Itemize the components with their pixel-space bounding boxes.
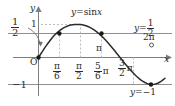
xtick-5pi-over-6-num: 5 bbox=[94, 62, 102, 71]
xtick-3pi-over-2-suffix: π bbox=[127, 64, 133, 73]
point-two-pi bbox=[150, 43, 154, 47]
origin-label: O bbox=[30, 58, 37, 67]
y-tick-one-label: 1 bbox=[31, 20, 37, 29]
hline-minus-one-label: y=−1 bbox=[130, 88, 156, 97]
xtick-3pi-over-2-num: 3 bbox=[118, 59, 126, 68]
xtick-3pi-over-2-den: 2 bbox=[118, 68, 126, 78]
xtick-pi-over-6: π 6 bbox=[53, 62, 61, 81]
x-axis-label: x bbox=[164, 55, 169, 64]
xtick-pi-over-6-num: π bbox=[53, 62, 61, 71]
sine-graph-figure: y x O 1 −1 1 2 y=sinx y= 1 2 y=−1 π 6 bbox=[0, 0, 175, 106]
xtick-5pi-over-6: 5 6 π bbox=[94, 62, 109, 81]
half-callout-label: 1 2 bbox=[11, 17, 19, 38]
y-axis-arrow-icon bbox=[35, 6, 41, 12]
hline-half-numerator: 1 bbox=[147, 19, 155, 28]
xtick-pi-over-6-den: 6 bbox=[53, 71, 61, 81]
xtick-5pi-over-6-den: 6 bbox=[94, 71, 102, 81]
xtick-pi: π bbox=[96, 44, 102, 53]
curve-equation-op: =sin bbox=[76, 7, 97, 17]
xtick-pi-over-2-num: π bbox=[75, 62, 83, 71]
xtick-two-pi: 2π bbox=[143, 33, 155, 42]
y-tick-minus-one-label: −1 bbox=[12, 80, 27, 90]
curve-equation-label: y=sinx bbox=[71, 8, 102, 17]
xtick-5pi-over-6-suffix: π bbox=[103, 67, 109, 76]
hline-minus-one-eq: =−1 bbox=[135, 88, 156, 97]
half-callout-numerator: 1 bbox=[11, 17, 19, 27]
point-pi-over-6 bbox=[57, 31, 61, 35]
y-axis-label: y bbox=[30, 4, 35, 13]
xtick-3pi-over-2: 3 2 π bbox=[118, 59, 133, 78]
xtick-pi-over-2-den: 2 bbox=[75, 71, 83, 81]
half-callout-denominator: 2 bbox=[11, 27, 19, 38]
curve-equation-x: x bbox=[97, 7, 102, 17]
point-5pi-over-6 bbox=[99, 31, 103, 35]
xtick-pi-over-2: π 2 bbox=[75, 62, 83, 81]
